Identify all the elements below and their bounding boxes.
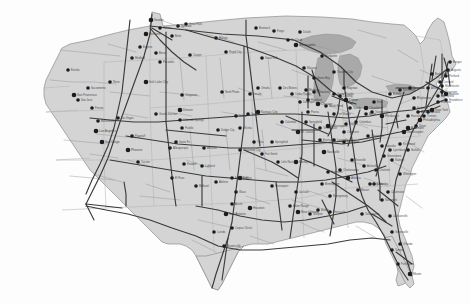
city-label-mobile: Mobile (321, 208, 329, 212)
city-dot-toledo (348, 106, 352, 110)
city-dot-sacramento (86, 86, 90, 90)
city-dot-evansville (318, 138, 322, 142)
city-dot-boise (154, 51, 158, 55)
city-dot-columbia-mo (280, 120, 284, 124)
city-dot-traverse-city (332, 70, 336, 74)
city-dot-duluth (298, 30, 302, 34)
city-label-traverse-city: Traverse City (337, 70, 354, 74)
city-label-lexington: Lexington (347, 140, 359, 144)
city-dot-cincinnati (342, 130, 346, 134)
city-dot-chicago (316, 102, 321, 107)
city-label-topeka: Topeka (251, 112, 260, 116)
city-dot-lynchburg (388, 148, 392, 152)
city-label-shreveport: Shreveport (275, 184, 288, 188)
city-dot-st-louis (296, 130, 301, 135)
city-label-amarillo: Amarillo (207, 146, 217, 150)
city-dot-concord (438, 80, 442, 84)
city-dot-springfield-il (304, 120, 308, 124)
city-dot-rochester (398, 88, 402, 92)
city-label-omaha: Omaha (261, 86, 270, 90)
city-dot-corpus-christi (230, 226, 234, 230)
city-label-washington-dc: Washington (407, 130, 424, 134)
city-dot-charlotte (374, 168, 378, 172)
city-dot-wilmington-nc (398, 172, 402, 176)
city-label-boise: Boise (159, 51, 166, 55)
city-dot-fargo (272, 29, 276, 33)
city-dot-albany (426, 86, 430, 90)
city-label-binghamton: Binghamton (417, 96, 432, 100)
city-dot-waco (234, 190, 238, 194)
city-dot-atlanta (346, 176, 351, 181)
city-label-st-louis: St. Louis (301, 130, 313, 134)
city-label-harrisburg: Harrisburg (411, 114, 424, 118)
city-label-minneapolis: Minneapolis (299, 43, 316, 47)
city-dot-wichita (238, 126, 242, 130)
city-label-jackson: Jackson (299, 190, 309, 194)
city-label-eugene: Eugene (143, 45, 153, 49)
city-dot-detroit (344, 98, 349, 103)
city-dot-midland (194, 184, 198, 188)
city-dot-burlington (430, 72, 434, 76)
city-label-grand-junction: Grand Junction (159, 112, 178, 116)
city-label-brownsville: Brownsville (227, 244, 241, 248)
city-dot-medford (130, 56, 134, 60)
city-dot-hartford (436, 100, 440, 104)
city-dot-eureka (66, 68, 70, 72)
city-label-tulsa: Tulsa (257, 140, 264, 144)
city-label-san-jose: San Jose (81, 98, 93, 102)
city-dot-grand-rapids (332, 92, 336, 96)
city-label-santa-fe: Santa Fe (179, 140, 190, 144)
city-dot-springfield-ma (436, 94, 440, 98)
city-label-huntsville: Huntsville (331, 170, 343, 174)
city-dot-tulsa (252, 140, 256, 144)
city-dot-portland (144, 32, 149, 37)
city-dot-miami (408, 272, 413, 277)
city-label-dayton: Dayton (349, 122, 358, 126)
city-dot-baton-rouge (288, 204, 292, 208)
city-label-reno: Reno (113, 80, 120, 84)
city-dot-manchester (440, 84, 444, 88)
city-dot-birmingham (320, 182, 324, 186)
city-dot-pocatello (158, 60, 162, 64)
city-label-jacksonville: Jacksonville (393, 214, 408, 218)
city-dot-allentown (416, 110, 420, 114)
city-dot-salt-lake-city (144, 80, 149, 85)
city-label-nashville: Nashville (327, 150, 340, 154)
city-label-lubbock: Lubbock (205, 164, 216, 168)
city-label-duluth: Duluth (303, 30, 311, 34)
city-label-richmond: Richmond (403, 142, 416, 146)
city-dot-raleigh (390, 158, 394, 162)
city-label-wausau: Wausau (307, 66, 317, 70)
city-label-fort-smith: Fort Smith (265, 152, 278, 156)
city-label-billings: Billings (219, 36, 228, 40)
city-dot-madison (304, 88, 308, 92)
city-label-peoria: Peoria (311, 110, 319, 114)
city-dot-fort-myers (396, 262, 400, 266)
city-label-tucson: Tucson (141, 160, 150, 164)
city-dot-charleston-sc (386, 190, 390, 194)
city-label-st-cloud: St. Cloud (291, 38, 303, 42)
city-label-marquette: Marquette (325, 54, 338, 58)
city-dot-gainesville (390, 230, 394, 234)
city-label-fort-myers: Fort Myers (401, 262, 414, 266)
city-label-buffalo: Buffalo (393, 92, 402, 96)
city-dot-new-orleans (296, 210, 301, 215)
city-label-columbia-mo: Columbia (285, 120, 297, 124)
city-dot-seattle (149, 18, 154, 23)
city-dot-jacksonville (388, 214, 392, 218)
city-dot-akron (364, 112, 368, 116)
city-label-orlando: Orlando (403, 242, 413, 246)
city-dot-norfolk (406, 148, 410, 152)
city-dot-flagstaff (130, 134, 134, 138)
city-label-seattle: Seattle (154, 18, 164, 22)
city-dot-las-vegas (116, 116, 120, 120)
city-label-birmingham: Birmingham (325, 182, 340, 186)
city-dot-wausau (302, 66, 306, 70)
city-label-charleston-wv: Charleston (371, 134, 385, 138)
city-label-manchester: Manchester (445, 84, 459, 88)
city-label-los-angeles: Los Angeles (99, 129, 116, 133)
city-label-burlington: Burlington (435, 72, 448, 76)
city-dot-tucson (136, 160, 140, 164)
city-label-albany: Albany (431, 86, 440, 90)
city-label-butte: Butte (175, 34, 182, 38)
